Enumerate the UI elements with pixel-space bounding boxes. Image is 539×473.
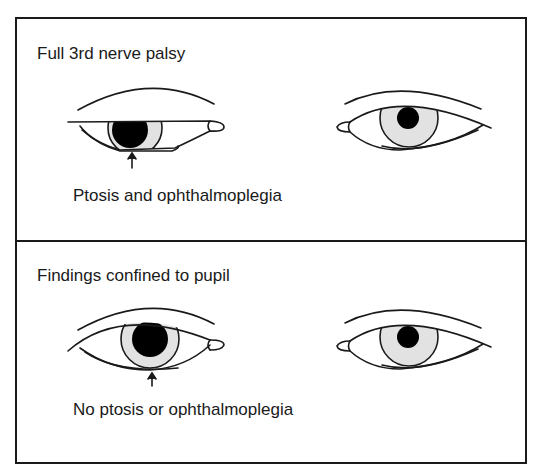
dilated-pupil-eye-icon: [68, 308, 224, 386]
normal-eye-icon: [337, 308, 491, 369]
normal-eye-icon: [337, 89, 491, 150]
ptotic-eye-icon: [68, 88, 224, 168]
eye-illustrations: [0, 0, 539, 473]
